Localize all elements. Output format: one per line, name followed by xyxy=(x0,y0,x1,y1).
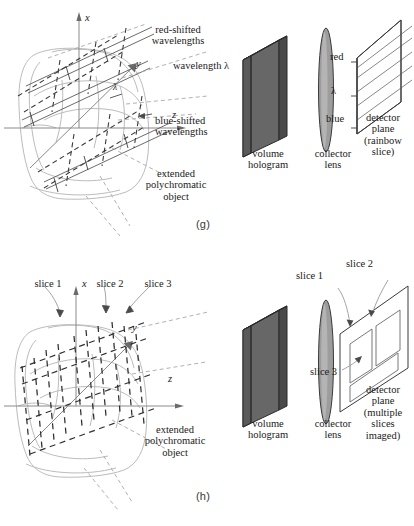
volume-hologram xyxy=(243,36,287,157)
axis-label-z: z xyxy=(168,373,172,384)
label-slice-3: slice 3 xyxy=(134,278,182,289)
detector-lambda-label: λ xyxy=(331,85,336,96)
panel-h-object-diagram xyxy=(0,270,230,515)
label-extended-polychromatic-object: extended polychromatic object xyxy=(126,424,224,458)
detector-slice-3-label: slice 3 xyxy=(310,366,337,377)
axis-label-y: y xyxy=(132,322,137,333)
lambda-axis-label: λ xyxy=(113,82,117,92)
detector-slice-1-label: slice 1 xyxy=(296,270,323,281)
volume-hologram-label: volume hologram xyxy=(235,148,301,171)
detector-plane-label: detector plane (rainbow slice) xyxy=(352,112,414,158)
detector-red-label: red xyxy=(330,51,343,62)
label-slice-1: slice 1 xyxy=(24,278,72,289)
figure-container: x y z λ red-shifted wavelengths waveleng… xyxy=(0,0,414,526)
panel-h-tag: (h) xyxy=(196,490,210,502)
panel-g: x y z λ red-shifted wavelengths waveleng… xyxy=(0,0,414,256)
detector-plane-label: detector plane (multiple slices imaged) xyxy=(352,384,414,441)
label-slice-2: slice 2 xyxy=(86,278,134,289)
leader-rays xyxy=(84,312,208,510)
axis-label-y: y xyxy=(136,58,141,69)
panel-g-tag: (g) xyxy=(196,218,210,230)
detector-blue-label: blue xyxy=(326,113,344,124)
axis-arrowheads xyxy=(73,286,184,409)
slice-dashed-lines xyxy=(18,28,144,188)
detector-slice-2-label: slice 2 xyxy=(346,258,373,269)
label-extended-polychromatic-object: extended polychromatic object xyxy=(128,168,224,202)
axis-label-x: x xyxy=(85,12,90,23)
label-red-shifted-wavelengths: red-shifted wavelengths xyxy=(128,24,228,47)
slice-label-pointers xyxy=(44,286,150,317)
volume-hologram-label: volume hologram xyxy=(235,418,301,441)
panel-h: x y z slice 1 slice 2 slice 3 extended p… xyxy=(0,256,414,526)
